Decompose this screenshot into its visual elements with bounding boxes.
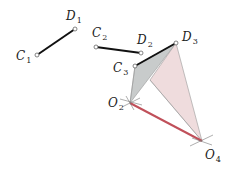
point-d1-icon — [73, 27, 77, 31]
label-c1: C1 — [16, 49, 31, 65]
label-d3: D3 — [181, 30, 198, 46]
linkage-synthesis-diagram: C1 D1 C2 D2 C3 D3 O2 O4 — [0, 0, 229, 177]
label-o2: O2 — [108, 96, 124, 112]
point-d3-icon — [174, 41, 178, 45]
label-o4: O4 — [205, 148, 221, 164]
label-c3: C3 — [113, 61, 128, 77]
link-c2-d2 — [96, 47, 141, 53]
label-d2: D2 — [136, 33, 153, 49]
point-c3-icon — [133, 64, 137, 68]
point-c2-icon — [94, 45, 98, 49]
point-c1-icon — [35, 53, 39, 57]
label-d1: D1 — [65, 9, 82, 25]
label-c2: C2 — [92, 26, 107, 42]
link-c1-d1 — [37, 29, 75, 55]
point-d2-icon — [139, 51, 143, 55]
